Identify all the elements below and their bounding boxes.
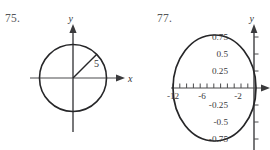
x-tick-label-neg6: -6 [198,91,206,101]
y-axis-label: y [249,13,255,24]
y-tick-label-neg0.75: -0.75 [209,134,229,144]
x-axis-arrowhead [261,85,270,92]
y-axis-label: y [68,13,74,24]
y-tick-label-neg0.5: -0.5 [213,117,228,127]
x-tick-label-neg2: -2 [234,91,242,101]
y-tick-label-0.25: 0.25 [212,66,228,76]
x-axis-arrowhead [116,75,125,82]
x-axis-ticks [173,84,248,89]
radius-label: 5 [94,58,99,69]
y-axis-arrowhead [251,24,258,33]
figure-75: 75. 5 y x [0,0,135,150]
y-axis-arrowhead [69,24,76,33]
plot-75: 5 y x [0,0,135,150]
x-axis-label: x [127,73,133,84]
plot-77: 0.75 0.5 0.25 -0.25 -0.5 -0.75 -12 -6 -2… [135,0,270,150]
figure-77: 77. [135,0,270,150]
x-tick-label-neg12: -12 [167,91,180,101]
y-tick-label-0.5: 0.5 [217,49,229,59]
y-tick-label-0.75: 0.75 [212,32,228,42]
y-tick-label-neg0.25: -0.25 [209,100,229,110]
